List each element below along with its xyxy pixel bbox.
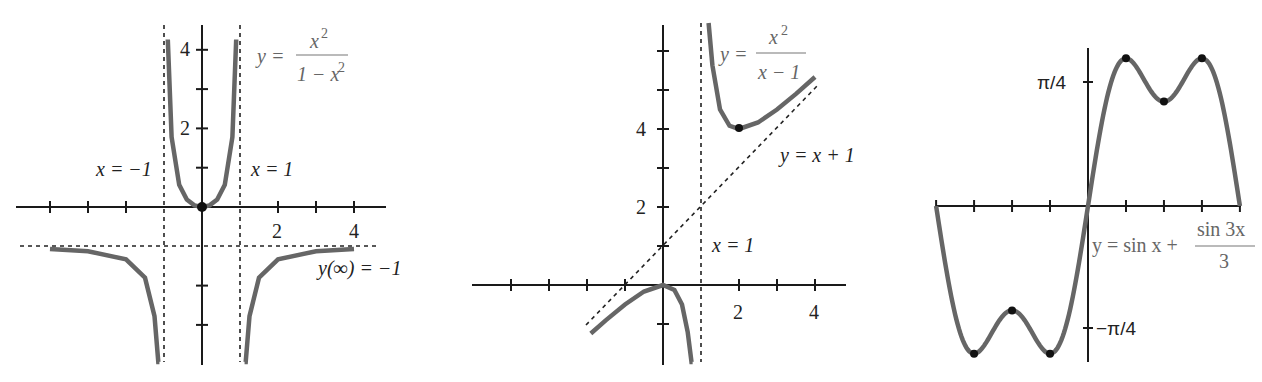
svg-text:1 − x: 1 − x: [297, 63, 339, 85]
marked-point: [1008, 306, 1016, 314]
equation-label: y = sin x + sin 3x 3: [1092, 218, 1255, 272]
marked-point: [735, 124, 743, 132]
svg-text:2: 2: [338, 60, 345, 75]
y-tick-label-4: 4: [636, 118, 646, 140]
chart-3: π/4 −π/4 y = sin x + sin 3x 3: [936, 48, 1255, 362]
svg-text:2: 2: [321, 26, 328, 41]
svg-text:y =: y =: [718, 43, 747, 66]
svg-text:y = sin x +: y = sin x +: [1092, 234, 1178, 257]
x-tick-label-4: 4: [349, 220, 359, 242]
label-x-1: x = 1: [250, 158, 293, 180]
svg-text:y =: y =: [255, 45, 284, 68]
chart-2: 4 2 2 4 y = x + 1 x = 1 y = x 2 x − 1: [472, 23, 855, 365]
x-tick-label-2: 2: [272, 220, 282, 242]
svg-text:sin 3x: sin 3x: [1197, 218, 1245, 240]
curve-left-branch: [50, 249, 159, 362]
x-tick-label-4: 4: [809, 301, 819, 323]
marked-point: [1198, 54, 1206, 62]
y-tick-label-2: 2: [180, 117, 190, 139]
marked-point: [1046, 350, 1054, 358]
marked-point: [1160, 98, 1168, 106]
label-x-1: x = 1: [711, 234, 754, 256]
y-tick-label-neg-pi-4: −π/4: [1096, 318, 1136, 339]
y-tick-label-2: 2: [636, 196, 646, 218]
x-tick-label-2: 2: [733, 301, 743, 323]
chart-1: 4 2 2 4 x = −1 x = 1 y(∞) = −1 y = x 2 1…: [16, 25, 401, 365]
curve-left-branch: [591, 285, 693, 362]
y-tick-label-pi-4: π/4: [1037, 72, 1066, 93]
label-y-inf: y(∞) = −1: [316, 257, 401, 280]
equation-label: y = x 2 x − 1: [718, 23, 806, 83]
y-tick-label-4: 4: [180, 38, 190, 60]
svg-text:x: x: [309, 30, 319, 52]
marked-point: [1122, 54, 1130, 62]
label-oblique: y = x + 1: [778, 144, 855, 167]
svg-text:x: x: [768, 26, 778, 48]
svg-text:3: 3: [1219, 250, 1229, 272]
equation-label: y = x 2 1 − x 2: [255, 26, 348, 85]
marked-point: [970, 350, 978, 358]
svg-text:x − 1: x − 1: [757, 61, 800, 83]
figure-canvas: 4 2 2 4 x = −1 x = 1 y(∞) = −1 y = x 2 1…: [0, 0, 1262, 382]
svg-text:2: 2: [781, 23, 788, 38]
label-x-neg1: x = −1: [95, 158, 152, 180]
marked-point: [197, 202, 207, 212]
asymptote-y-x-plus-1: [586, 84, 819, 325]
